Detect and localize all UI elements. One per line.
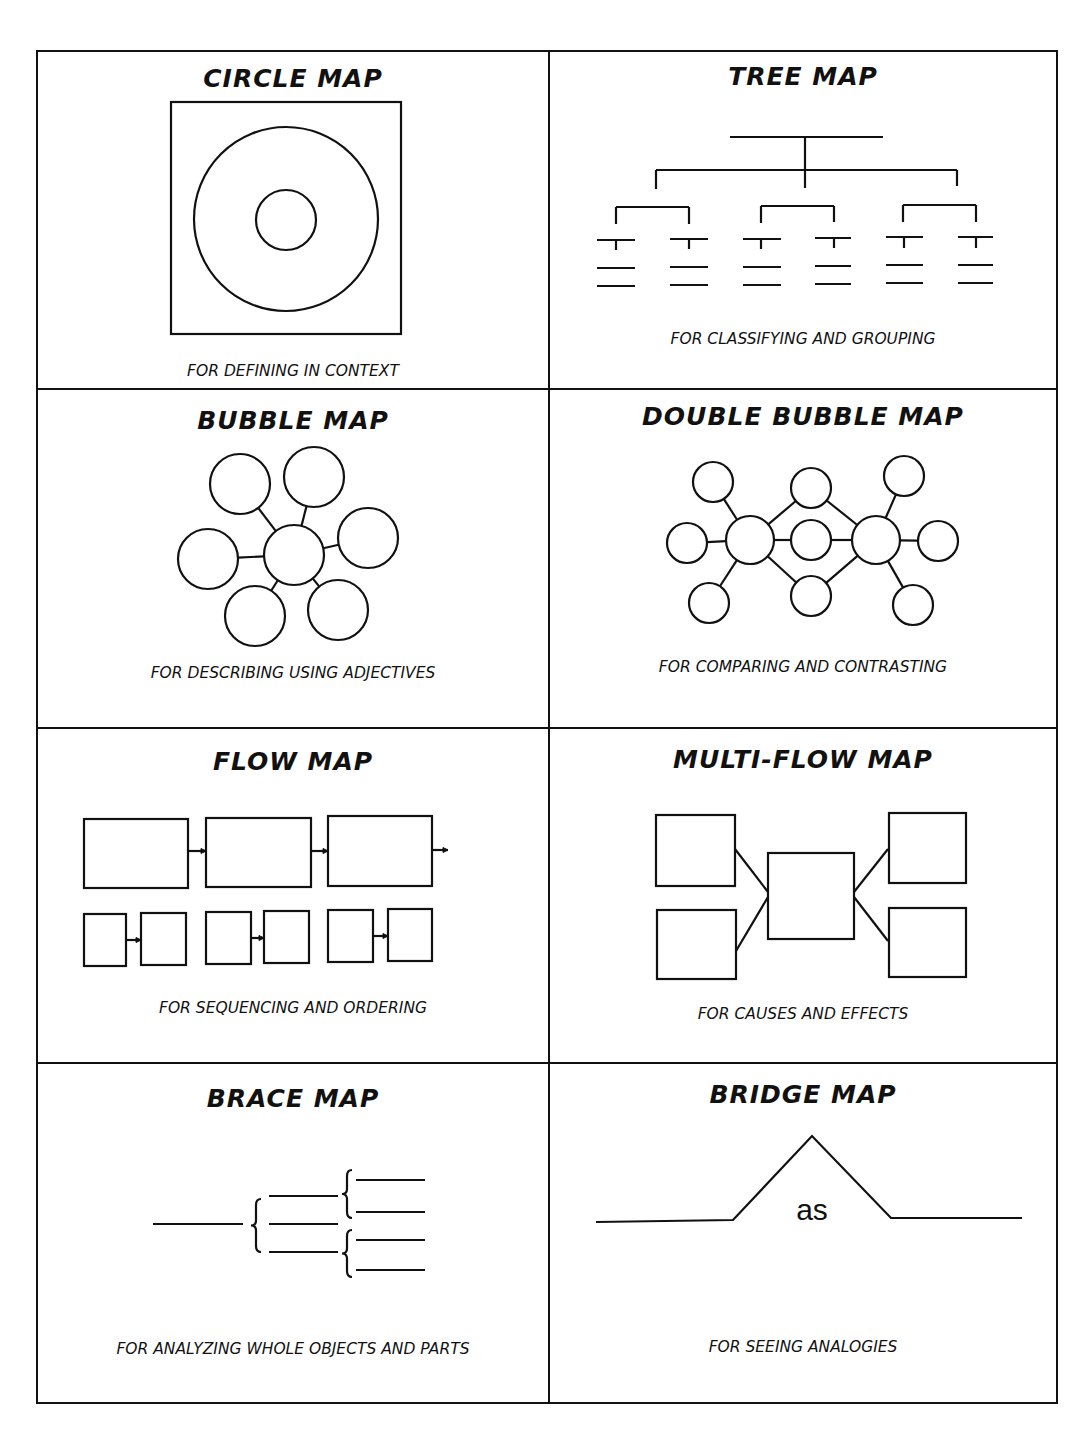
topic-bubble	[852, 516, 900, 564]
panel-caption: FOR DEFINING IN CONTEXT	[38, 362, 548, 380]
topic-bubble	[726, 516, 774, 564]
connector-line	[768, 556, 797, 582]
panel-caption: FOR SEQUENCING AND ORDERING	[38, 999, 548, 1017]
substage-box	[206, 912, 251, 964]
panel-brace-map: BRACE MAP FOR ANALYZING WHOLE OBJECTS AN…	[38, 1064, 550, 1402]
connector-line	[886, 494, 896, 518]
relating-factor-label: as	[796, 1193, 828, 1226]
arrow-head-icon	[443, 848, 448, 853]
brace-shape	[251, 1199, 261, 1252]
cause-box	[656, 815, 735, 886]
adjective-bubble	[210, 454, 270, 514]
event-box	[768, 853, 854, 939]
panel-double-bubble-map: DOUBLE BUBBLE MAP FOR COMPARING AND CONT…	[550, 390, 1056, 729]
brace-shape	[342, 1170, 352, 1218]
stage-box	[206, 818, 311, 887]
connector-line	[323, 545, 339, 549]
stage-box	[328, 816, 432, 886]
adjective-bubble	[284, 447, 344, 507]
topic-circle	[256, 190, 316, 250]
similarity-bubble	[791, 576, 831, 616]
connector-line	[724, 499, 737, 520]
connector-line	[258, 508, 276, 531]
brace-shape	[342, 1230, 352, 1277]
panel-bubble-map: BUBBLE MAP FOR DESCRIBING USING ADJECTIV…	[38, 390, 550, 729]
frame-of-reference-box	[171, 102, 401, 334]
connector-line	[313, 578, 320, 586]
difference-bubble	[893, 585, 933, 625]
difference-bubble	[689, 583, 729, 623]
similarity-bubble	[791, 520, 831, 560]
connector-line	[301, 506, 306, 526]
circle-map-diagram	[38, 52, 550, 390]
panel-caption: FOR CAUSES AND EFFECTS	[550, 1005, 1056, 1023]
panel-multi-flow-map: MULTI-FLOW MAP FOR CAUSES AND EFFECTS	[550, 729, 1056, 1064]
difference-bubble	[918, 521, 958, 561]
substage-box	[84, 914, 126, 966]
connector-line	[238, 556, 264, 557]
adjective-bubble	[308, 580, 368, 640]
panel-circle-map: CIRCLE MAP FOR DEFINING IN CONTEXT	[38, 52, 550, 390]
connector-line	[827, 500, 858, 525]
connector-line	[888, 561, 903, 588]
panel-tree-map: TREE MAP FOR CLASSIFYING AND GROUPING	[550, 52, 1056, 390]
cause-box	[657, 910, 736, 979]
cause-effect-line	[736, 897, 768, 951]
panel-flow-map: FLOW MAP FOR SEQUENCING AND ORDERING	[38, 729, 550, 1064]
connector-line	[826, 556, 858, 583]
substage-box	[141, 913, 186, 965]
thinking-maps-grid: CIRCLE MAP FOR DEFINING IN CONTEXT TREE …	[36, 50, 1058, 1404]
difference-bubble	[667, 523, 707, 563]
connector-line	[271, 580, 278, 590]
connector-line	[768, 501, 796, 524]
context-circle	[194, 127, 378, 311]
cause-effect-line	[735, 849, 768, 892]
connector-line	[720, 560, 737, 586]
cause-effect-line	[854, 897, 888, 941]
cause-effect-line	[854, 849, 888, 892]
double-bubble-map-diagram	[550, 390, 1056, 729]
connector-line	[707, 541, 726, 542]
panel-caption: FOR ANALYZING WHOLE OBJECTS AND PARTS	[38, 1340, 548, 1358]
substage-box	[328, 910, 373, 962]
panel-bridge-map: BRIDGE MAP as FOR SEEING ANALOGIES	[550, 1064, 1056, 1402]
difference-bubble	[884, 456, 924, 496]
similarity-bubble	[791, 468, 831, 508]
panel-caption: FOR COMPARING AND CONTRASTING	[550, 658, 1056, 676]
panel-caption: FOR SEEING ANALOGIES	[550, 1338, 1056, 1356]
topic-bubble	[264, 525, 324, 585]
adjective-bubble	[225, 586, 285, 646]
adjective-bubble	[178, 529, 238, 589]
effect-box	[889, 813, 966, 883]
substage-box	[388, 909, 432, 961]
substage-box	[264, 911, 309, 963]
panel-caption: FOR CLASSIFYING AND GROUPING	[550, 330, 1056, 348]
panel-caption: FOR DESCRIBING USING ADJECTIVES	[38, 664, 548, 682]
stage-box	[84, 819, 188, 888]
adjective-bubble	[338, 508, 398, 568]
difference-bubble	[693, 462, 733, 502]
effect-box	[889, 908, 966, 977]
